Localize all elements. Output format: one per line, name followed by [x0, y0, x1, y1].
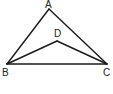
segment-ab [7, 9, 49, 64]
segment-dc [57, 41, 107, 64]
label-a: A [45, 0, 52, 10]
labels: A B C D [2, 0, 110, 78]
label-d: D [54, 28, 61, 39]
segment-bd [7, 41, 57, 64]
label-c: C [103, 67, 110, 78]
label-b: B [2, 67, 9, 78]
triangle-diagram: A B C D [0, 0, 113, 94]
